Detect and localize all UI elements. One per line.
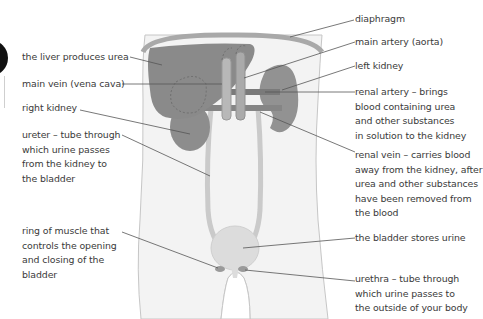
label-renal-artery-line-2: blood containing urea [355, 100, 466, 115]
label-bladder: the bladder stores urine [355, 231, 465, 246]
label-renal-vein-line-2: away from the kidney, after [355, 163, 483, 178]
vena-cava-shape [222, 58, 231, 120]
label-urethra-line-3: the outside of your body [355, 301, 468, 316]
label-renal-artery-line-4: in solution to the kidney [355, 129, 466, 144]
sphincter-left [215, 266, 225, 272]
label-sphincter-line-4: bladder [22, 268, 117, 283]
label-ureter: ureter – tube through which urine passes… [22, 128, 120, 186]
label-sphincter-line-1: ring of muscle that [22, 224, 117, 239]
label-renal-vein-line-5: the blood [355, 206, 483, 221]
label-left-kidney: left kidney [355, 59, 403, 74]
label-renal-vein-line-4: have been removed from [355, 192, 483, 207]
bladder-shape [211, 226, 259, 270]
label-ureter-line-3: from the kidney to [22, 157, 120, 172]
label-ureter-line-4: the bladder [22, 172, 120, 187]
label-urethra: urethra – tube through which urine passe… [355, 272, 468, 316]
label-ureter-line-2: which urine passes [22, 143, 120, 158]
label-urethra-line-1: urethra – tube through [355, 272, 468, 287]
label-renal-vein-line-3: urea and other substances [355, 177, 483, 192]
label-liver: the liver produces urea [22, 50, 129, 65]
sphincter-right [238, 266, 248, 272]
label-diaphragm: diaphragm [355, 12, 405, 27]
label-sphincter-line-2: controls the opening [22, 239, 117, 254]
label-sphincter: ring of muscle that controls the opening… [22, 224, 117, 282]
label-sphincter-line-3: and closing of the [22, 253, 117, 268]
label-vena-cava: main vein (vena cava) [22, 77, 125, 92]
label-renal-artery-line-1: renal artery – brings [355, 85, 466, 100]
label-right-kidney: right kidney [22, 101, 77, 116]
label-aorta: main artery (aorta) [355, 35, 443, 50]
label-ureter-line-1: ureter – tube through [22, 128, 120, 143]
label-renal-vein-line-1: renal vein – carries blood [355, 148, 483, 163]
label-renal-vein: renal vein – carries blood away from the… [355, 148, 483, 221]
label-renal-artery: renal artery – brings blood containing u… [355, 85, 466, 143]
label-renal-artery-line-3: and other substances [355, 114, 466, 129]
label-urethra-line-2: which urine passes to [355, 287, 468, 302]
aorta-shape [236, 52, 245, 120]
